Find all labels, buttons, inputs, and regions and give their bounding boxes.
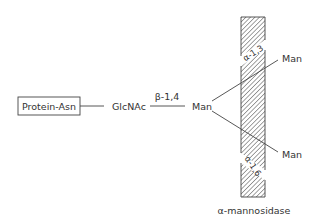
enzyme-label: α-mannosidase bbox=[218, 205, 291, 216]
glycan-diagram: α-1,3 α-1,6 Protein-Asn GlcNAc β-1,4 Man… bbox=[0, 0, 312, 222]
svg-text:Protein-Asn: Protein-Asn bbox=[22, 101, 76, 112]
glcnac-node: GlcNAc bbox=[112, 101, 146, 112]
beta-linkage-label: β-1,4 bbox=[155, 91, 180, 102]
man-upper-node: Man bbox=[282, 53, 302, 64]
man-lower-node: Man bbox=[282, 149, 302, 160]
protein-asn-node: Protein-Asn bbox=[18, 97, 80, 115]
man-core-node: Man bbox=[192, 101, 212, 112]
